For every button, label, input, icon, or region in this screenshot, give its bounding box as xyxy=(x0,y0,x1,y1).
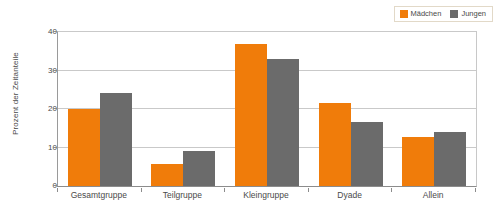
chart-legend: Mädchen Jungen xyxy=(394,6,493,22)
x-tick-mark xyxy=(57,188,58,192)
bar-jungen xyxy=(434,132,466,186)
legend-entry-maedchen: Mädchen xyxy=(400,10,442,18)
bar-maedchen xyxy=(68,109,100,186)
x-tick-mark xyxy=(141,188,142,192)
bar-maedchen xyxy=(402,137,434,186)
y-axis-title: Prozent der Zeitanteile xyxy=(8,0,22,186)
x-tick-mark xyxy=(308,188,309,192)
legend-swatch-jungen xyxy=(450,10,458,18)
legend-label-jungen: Jungen xyxy=(461,10,486,18)
bar-jungen xyxy=(351,122,383,186)
x-tick-mark xyxy=(475,188,476,192)
legend-entry-jungen: Jungen xyxy=(450,10,486,18)
bar-group xyxy=(58,32,142,186)
x-tick-label: Dyade xyxy=(337,190,362,200)
bar-group xyxy=(142,32,226,186)
y-axis-title-text: Prozent der Zeitanteile xyxy=(11,52,20,135)
bar-maedchen xyxy=(319,103,351,186)
bar-jungen xyxy=(267,59,299,186)
bar-chart-figure: Mädchen Jungen Prozent der Zeitanteile 0… xyxy=(0,0,502,215)
bar-jungen xyxy=(183,151,215,186)
bar-group xyxy=(225,32,309,186)
x-tick-label: Teilgruppe xyxy=(163,190,202,200)
x-tick-label: Kleingruppe xyxy=(243,190,288,200)
plot-area xyxy=(57,31,477,187)
x-tick-mark xyxy=(224,188,225,192)
bar-maedchen xyxy=(151,164,183,186)
bar-maedchen xyxy=(235,44,267,186)
x-tick-label: Allein xyxy=(423,190,444,200)
x-tick-mark xyxy=(391,188,392,192)
bar-group xyxy=(309,32,393,186)
bar-jungen xyxy=(100,93,132,186)
x-axis-labels: GesamtgruppeTeilgruppeKleingruppeDyadeAl… xyxy=(57,188,477,210)
bar-group xyxy=(392,32,476,186)
legend-swatch-maedchen xyxy=(400,10,408,18)
x-tick-label: Gesamtgruppe xyxy=(71,190,127,200)
y-axis-ticks: 010203040 xyxy=(27,0,57,215)
legend-label-maedchen: Mädchen xyxy=(411,10,442,18)
